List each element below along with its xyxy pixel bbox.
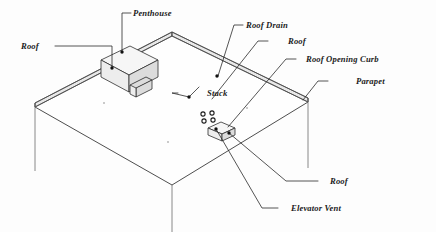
marker-roof-left xyxy=(110,66,113,69)
marker-penthouse xyxy=(120,50,123,53)
label-roof-top-right: Roof xyxy=(287,36,307,46)
label-roof-left: Roof xyxy=(20,41,40,51)
label-roof-drain: Roof Drain xyxy=(245,20,288,30)
roof-surface xyxy=(35,36,308,185)
label-stack: Stack xyxy=(207,88,228,98)
roof-mark-left xyxy=(103,102,105,104)
roof-diagram-root: Penthouse Roof Roof Drain Roof Roof Open… xyxy=(0,0,436,232)
label-parapet: Parapet xyxy=(356,76,385,86)
label-roof-bottom-right: Roof xyxy=(329,176,349,186)
marker-roof-drain xyxy=(215,74,218,77)
marker-stack xyxy=(187,95,190,98)
label-penthouse: Penthouse xyxy=(133,8,172,18)
roof-drain-3 xyxy=(202,119,206,123)
roof-drain-4 xyxy=(211,118,215,122)
roof-isometric-svg: Penthouse Roof Roof Drain Roof Roof Open… xyxy=(0,0,436,232)
roof-mark-right xyxy=(246,107,248,109)
label-roof-opening-curb: Roof Opening Curb xyxy=(305,54,379,64)
marker-roof-bottom-right xyxy=(227,131,230,134)
marker-elevator-vent xyxy=(214,127,217,130)
roof-plane-group xyxy=(35,36,308,185)
roof-drain-2 xyxy=(210,111,214,115)
roof-mark-center xyxy=(167,141,169,143)
label-elevator-vent: Elevator Vent xyxy=(290,203,341,213)
roof-drain-1 xyxy=(201,112,205,116)
